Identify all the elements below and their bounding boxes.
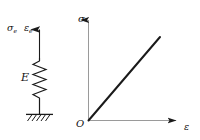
spring-coil-icon	[33, 58, 46, 114]
plot-y-axis-label: σ	[78, 14, 85, 24]
figure-vector-layer	[0, 0, 200, 140]
plot-origin-label: O	[76, 119, 84, 129]
spring-element-group	[26, 30, 53, 122]
fixed-support-hatching-icon	[28, 115, 51, 121]
stress-strain-plot-group	[89, 20, 177, 121]
plot-line-sigma-epsilon	[89, 37, 161, 121]
plot-x-axis-label: ε	[184, 122, 189, 132]
spring-strain-label: εe	[24, 23, 33, 33]
spring-stress-label: σe	[7, 23, 17, 33]
figure-root: σe εe E σ ε O	[0, 0, 200, 140]
spring-modulus-label: E	[21, 72, 29, 83]
